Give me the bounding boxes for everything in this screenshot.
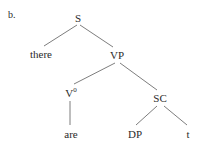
tree-node-are-label: are xyxy=(64,128,77,140)
tree-node-there-label: there xyxy=(30,48,52,60)
branch-sc-t xyxy=(164,106,187,125)
tree-node-are: are xyxy=(64,129,77,140)
tree-node-v0-superscript: 0 xyxy=(73,86,77,94)
branch-sc-dp xyxy=(136,106,157,125)
tree-node-s: S xyxy=(75,13,81,24)
tree-node-trace: t xyxy=(186,129,189,140)
branch-vp-v0 xyxy=(74,63,115,84)
tree-node-dp: DP xyxy=(128,129,142,140)
branch-vp-sc xyxy=(120,63,157,90)
tree-branches-svg xyxy=(0,0,200,148)
branch-s-there xyxy=(44,25,77,46)
tree-node-vp-label: VP xyxy=(110,49,124,61)
syntax-tree-figure: b. S there VP V0 are SC DP t xyxy=(0,0,200,148)
tree-node-sc-label: SC xyxy=(153,92,166,104)
tree-node-trace-label: t xyxy=(186,128,189,140)
tree-node-dp-label: DP xyxy=(128,128,142,140)
tree-node-vp: VP xyxy=(110,50,124,61)
tree-node-v0-label: V xyxy=(65,87,73,99)
tree-node-s-label: S xyxy=(75,12,81,24)
branch-s-vp xyxy=(80,25,113,47)
tree-node-v0: V0 xyxy=(65,87,76,99)
tree-node-there: there xyxy=(30,49,52,60)
tree-node-sc: SC xyxy=(153,93,166,104)
